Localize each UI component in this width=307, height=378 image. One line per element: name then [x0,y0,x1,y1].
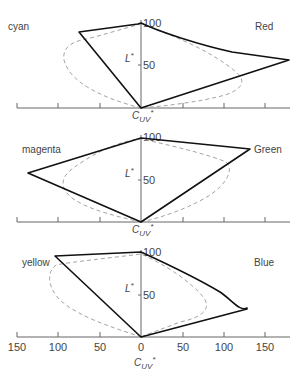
y-axis-label: L* [125,281,135,294]
y-tick-label-50: 50 [143,289,155,301]
x-tick-labels: 150 100 50 0 50 100 150 [8,341,274,353]
solid-gamut-boundary [79,23,289,108]
label-green: Green [254,144,282,155]
y-axis-label: L* [125,51,135,64]
svg-text:150: 150 [256,341,274,353]
chroma-lightness-gamut-figure: 100 50 L* CUV* cyan Red 100 50 L* CUV* m… [0,0,307,378]
x-axis-label: CUV* [134,355,156,371]
svg-text:150: 150 [8,341,26,353]
x-axis-label: CUV* [132,108,154,124]
y-tick-label-50: 50 [143,174,155,186]
svg-text:50: 50 [94,341,106,353]
label-magenta: magenta [22,144,61,155]
label-red: Red [255,21,273,32]
label-yellow: yellow [22,257,51,268]
svg-text:50: 50 [177,341,189,353]
svg-text:100: 100 [49,341,67,353]
y-tick-label-50: 50 [143,59,155,71]
svg-text:100: 100 [215,341,233,353]
label-cyan: cyan [8,21,29,32]
x-axis-label: CUV* [132,222,154,238]
panel-yellow-blue: 100 50 L* 150 100 50 0 50 100 150 CUV* y… [8,246,290,371]
panel-cyan-red: 100 50 L* CUV* cyan Red [8,17,290,124]
panel-magenta-green: 100 50 L* CUV* magenta Green [17,131,290,238]
label-blue: Blue [254,257,274,268]
y-axis-label: L* [125,166,135,179]
svg-text:0: 0 [138,341,144,353]
